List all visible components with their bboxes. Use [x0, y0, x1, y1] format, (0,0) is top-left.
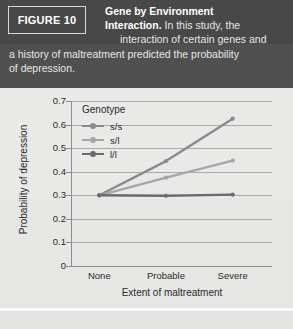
- bottom-strip: [0, 311, 293, 329]
- legend-item-ss: s/s: [82, 119, 125, 133]
- caption-title-line2: Interaction.: [105, 19, 162, 31]
- data-point: [97, 193, 101, 197]
- legend-label: l/l: [110, 149, 117, 160]
- caption-text-line4: a history of maltreatment predicted the …: [9, 47, 285, 61]
- figure-panel: FIGURE 10 Gene by Environment Interactio…: [0, 0, 293, 329]
- legend-label: s/s: [110, 121, 122, 132]
- x-axis-tick-label: Severe: [198, 270, 268, 281]
- data-point: [164, 176, 168, 180]
- data-point: [164, 159, 168, 163]
- chart-area: 00.10.20.30.40.50.60.7 Genotype s/ss/ll/…: [0, 88, 293, 310]
- plot-region: 00.10.20.30.40.50.60.7 Genotype s/ss/ll/…: [0, 88, 293, 310]
- legend-label: s/l: [110, 135, 120, 146]
- figure-header-band: FIGURE 10 Gene by Environment Interactio…: [0, 0, 293, 88]
- data-point: [231, 159, 235, 163]
- data-point: [231, 193, 235, 197]
- legend-swatch: [82, 135, 104, 145]
- caption-title-line1: Gene by Environment: [105, 5, 214, 17]
- legend-item-sl: s/l: [82, 133, 125, 147]
- x-axis-tick-label: Probable: [131, 270, 201, 281]
- x-axis-tick-label: None: [64, 270, 134, 281]
- legend-item-ll: l/l: [82, 147, 125, 161]
- legend-swatch: [82, 121, 104, 131]
- figure-caption: Gene by Environment Interaction. In this…: [9, 4, 285, 75]
- x-axis-title: Extent of maltreatment: [72, 287, 272, 298]
- data-point: [231, 117, 235, 121]
- caption-text-line2: In this study, the: [162, 19, 241, 31]
- caption-text-line3: interaction of certain genes and: [9, 32, 285, 46]
- y-axis-title: Probability of depression: [18, 105, 29, 255]
- data-point: [164, 194, 168, 198]
- chart-legend: Genotype s/ss/ll/l: [82, 104, 125, 161]
- legend-items: s/ss/ll/l: [82, 119, 125, 161]
- legend-title: Genotype: [82, 104, 125, 115]
- legend-swatch: [82, 149, 104, 159]
- caption-text-line5: of depression.: [9, 61, 285, 75]
